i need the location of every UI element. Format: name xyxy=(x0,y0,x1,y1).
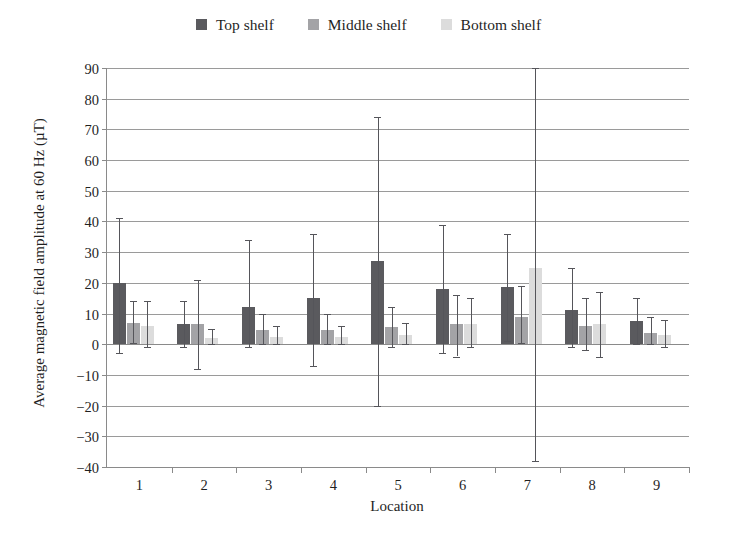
bar-groups xyxy=(107,68,689,467)
error-bar-cap-upper xyxy=(568,268,575,269)
error-bar xyxy=(133,301,134,342)
error-bar-cap-lower xyxy=(647,344,654,345)
x-tick-mark xyxy=(236,467,237,473)
error-bar xyxy=(327,314,328,345)
x-tick-label: 9 xyxy=(653,477,660,494)
error-bar-cap-upper xyxy=(259,314,266,315)
error-bar-cap-upper xyxy=(245,240,252,241)
error-bar xyxy=(119,218,120,353)
error-bar-cap-lower xyxy=(504,341,511,342)
error-bar-cap-upper xyxy=(338,326,345,327)
x-tick-mark xyxy=(624,467,625,473)
bar-group xyxy=(301,68,366,467)
legend-entry: Top shelf xyxy=(196,17,274,33)
y-tick-label: 60 xyxy=(85,153,100,170)
x-tick-mark xyxy=(366,467,367,473)
legend-label: Top shelf xyxy=(216,17,274,33)
x-tick-label: 2 xyxy=(200,477,207,494)
x-tick-label: 5 xyxy=(394,477,401,494)
error-bar xyxy=(263,314,264,345)
error-bar-cap-lower xyxy=(310,366,317,367)
error-bar xyxy=(184,301,185,347)
error-bar-cap-lower xyxy=(633,344,640,345)
error-bar-cap-upper xyxy=(439,225,446,226)
error-bar-cap-upper xyxy=(310,234,317,235)
error-bar-cap-lower xyxy=(582,350,589,351)
error-bar xyxy=(341,326,342,344)
x-tick-label: 8 xyxy=(588,477,595,494)
x-tick-mark xyxy=(560,467,561,473)
error-bar xyxy=(406,323,407,344)
y-tick-label: −40 xyxy=(76,460,99,477)
legend-entry: Bottom shelf xyxy=(441,17,542,33)
error-bar xyxy=(637,298,638,344)
bar-group xyxy=(236,68,301,467)
legend-entry: Middle shelf xyxy=(308,17,407,33)
error-bar xyxy=(651,317,652,345)
y-tick-label: 30 xyxy=(85,245,100,262)
x-tick-label: 1 xyxy=(136,477,143,494)
error-bar-cap-upper xyxy=(661,320,668,321)
error-bar-cap-lower xyxy=(439,353,446,354)
error-bar-cap-lower xyxy=(402,344,409,345)
error-bar-cap-lower xyxy=(273,344,280,345)
y-tick-label: 0 xyxy=(92,337,99,354)
error-bar-cap-lower xyxy=(388,347,395,348)
error-bar xyxy=(572,268,573,348)
bar-group xyxy=(495,68,560,467)
legend-label: Bottom shelf xyxy=(461,17,542,33)
error-bar-cap-lower xyxy=(453,357,460,358)
error-bar xyxy=(249,240,250,347)
error-bar-cap-upper xyxy=(518,286,525,287)
error-bar xyxy=(600,292,601,356)
error-bar-cap-lower xyxy=(324,344,331,345)
error-bar-cap-lower xyxy=(245,347,252,348)
error-bar xyxy=(392,307,393,347)
error-bar xyxy=(471,298,472,347)
error-bar-cap-lower xyxy=(467,347,474,348)
error-bar-cap-upper xyxy=(582,298,589,299)
error-bar xyxy=(521,286,522,343)
error-bar-cap-upper xyxy=(633,298,640,299)
error-bar-cap-lower xyxy=(116,353,123,354)
error-bar xyxy=(198,280,199,369)
x-tick-mark xyxy=(430,467,431,473)
error-bar-cap-lower xyxy=(338,344,345,345)
square-swatch-icon xyxy=(196,19,207,30)
magnetic-field-bar-chart: Top shelfMiddle shelfBottom shelf Averag… xyxy=(0,0,737,539)
error-bar xyxy=(665,320,666,348)
y-tick-label: 70 xyxy=(85,122,100,139)
error-bar-cap-lower xyxy=(568,347,575,348)
error-bar-cap-upper xyxy=(130,301,137,302)
x-axis-title: Location xyxy=(106,498,688,515)
error-bar-cap-lower xyxy=(130,343,137,344)
error-bar xyxy=(378,117,379,406)
error-bar-cap-upper xyxy=(647,317,654,318)
error-bar-cap-upper xyxy=(273,326,280,327)
y-tick-label: 80 xyxy=(85,91,100,108)
square-swatch-icon xyxy=(308,19,319,30)
error-bar-cap-upper xyxy=(388,307,395,308)
error-bar xyxy=(313,234,314,366)
error-bar-cap-upper xyxy=(402,323,409,324)
error-bar-cap-lower xyxy=(532,461,539,462)
error-bar-cap-upper xyxy=(208,329,215,330)
error-bar xyxy=(443,225,444,354)
y-tick-mark xyxy=(102,467,107,468)
y-tick-label: 50 xyxy=(85,183,100,200)
x-tick-label: 7 xyxy=(524,477,531,494)
gridline: −40 xyxy=(107,467,689,468)
y-tick-label: 10 xyxy=(85,306,100,323)
error-bar-cap-upper xyxy=(194,280,201,281)
error-bar-cap-upper xyxy=(144,301,151,302)
error-bar-cap-lower xyxy=(518,343,525,344)
y-tick-label: −30 xyxy=(76,429,99,446)
x-tick-mark xyxy=(301,467,302,473)
plot-area: 9080706050403020100−10−20−30−40 12345678… xyxy=(106,68,688,467)
error-bar xyxy=(277,326,278,344)
error-bar-cap-upper xyxy=(532,68,539,69)
error-bar xyxy=(507,234,508,341)
error-bar-cap-upper xyxy=(504,234,511,235)
bar-group xyxy=(172,68,237,467)
error-bar xyxy=(457,295,458,356)
